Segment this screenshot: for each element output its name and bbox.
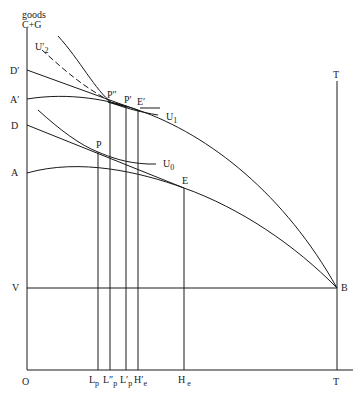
p-prime-label: P′ <box>124 94 132 105</box>
line-d-e <box>27 125 184 188</box>
lp-label: Lp <box>89 374 99 388</box>
u2-label: U′2 <box>35 41 48 55</box>
y-axis-label-cg: C+G <box>22 19 42 30</box>
e-label: E <box>182 175 188 186</box>
a-label: A <box>11 167 19 178</box>
origin-label: O <box>22 376 29 387</box>
p-double-prime-label: P″ <box>107 89 117 100</box>
lpp-label: L″p <box>103 374 117 388</box>
curve-a-prime-b <box>27 96 337 288</box>
economics-diagram: goods C+G O T T D′ A′ D A V P P″ P′ E′ E… <box>0 0 364 396</box>
d-prime-label: D′ <box>10 65 19 76</box>
he-label: He <box>178 374 191 388</box>
u0-label: U0 <box>163 158 174 172</box>
d-label: D <box>11 120 18 131</box>
e-prime-label: E′ <box>137 96 145 107</box>
he-prime-label: H′e <box>134 374 147 388</box>
t-bottom-label: T <box>333 376 339 387</box>
u1-label: U1 <box>166 111 177 125</box>
b-label: B <box>341 282 348 293</box>
p-label: P <box>96 139 102 150</box>
a-prime-label: A′ <box>10 94 19 105</box>
lp-prime-label: L′p <box>120 374 132 388</box>
t-top-label: T <box>333 69 339 80</box>
v-label: V <box>12 282 20 293</box>
